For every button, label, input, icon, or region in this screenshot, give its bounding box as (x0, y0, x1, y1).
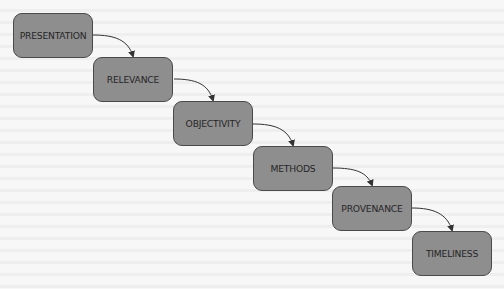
node-provenance: PROVENANCE (332, 186, 412, 231)
node-timeliness: TIMELINESS (412, 231, 492, 276)
arrow-methods-provenance (333, 168, 372, 185)
node-label: TIMELINESS (426, 248, 478, 259)
node-label: PRESENTATION (20, 30, 87, 41)
arrow-objectivity-methods (253, 124, 293, 145)
node-presentation: PRESENTATION (13, 13, 93, 58)
node-label: PROVENANCE (341, 203, 402, 214)
node-label: OBJECTIVITY (186, 118, 241, 129)
node-methods: METHODS (253, 146, 333, 191)
node-objectivity: OBJECTIVITY (173, 101, 253, 146)
arrow-provenance-timeliness (412, 208, 452, 230)
arrow-presentation-relevance (93, 35, 133, 56)
node-relevance: RELEVANCE (93, 57, 173, 102)
node-label: METHODS (271, 163, 316, 174)
arrow-relevance-objectivity (174, 79, 213, 100)
node-label: RELEVANCE (107, 74, 159, 85)
